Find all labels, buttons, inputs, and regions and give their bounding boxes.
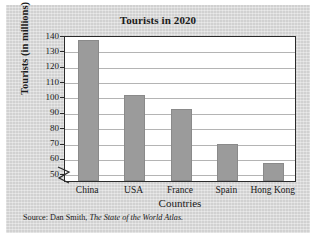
y-tick-label: 80 [33, 124, 59, 133]
y-tick-label: 130 [33, 47, 59, 56]
y-tick-label: 90 [33, 108, 59, 117]
y-tick-mark [60, 51, 64, 52]
bar-spain [217, 144, 238, 181]
y-tick-label: 140 [33, 32, 59, 41]
source-prefix: Source: Dan Smith, [23, 213, 87, 222]
y-tick-mark [60, 67, 64, 68]
y-tick-mark [60, 144, 64, 145]
source-title: The State of the World Atlas. [89, 213, 183, 222]
page-background: Tourists in 2020 50607080901001101201301… [6, 5, 310, 233]
y-tick-label: 60 [33, 154, 59, 163]
source-note: Source: Dan Smith, The State of the Worl… [23, 213, 183, 222]
y-tick-label: 70 [33, 139, 59, 148]
plot-area [64, 36, 296, 182]
y-tick-mark [60, 82, 64, 83]
chart-title: Tourists in 2020 [6, 14, 310, 26]
bar-france [171, 109, 192, 181]
bar-china [78, 40, 99, 181]
y-tick-mark [60, 128, 64, 129]
bar-usa [124, 95, 145, 181]
y-tick-label: 120 [33, 62, 59, 71]
x-axis-title: Countries [64, 197, 296, 209]
chart-figure: Tourists in 2020 50607080901001101201301… [6, 5, 310, 233]
y-tick-mark [60, 97, 64, 98]
y-tick-mark [60, 36, 64, 37]
y-axis-title: Tourists (in millions) [19, 0, 30, 119]
bar-hong-kong [263, 163, 284, 181]
y-tick-mark [60, 159, 64, 160]
axis-break-icon [56, 165, 72, 185]
x-tick-label: Hong Kong [233, 185, 313, 195]
y-tick-label: 110 [33, 78, 59, 87]
y-tick-label: 100 [33, 93, 59, 102]
bars-layer [65, 37, 295, 181]
y-tick-mark [60, 113, 64, 114]
